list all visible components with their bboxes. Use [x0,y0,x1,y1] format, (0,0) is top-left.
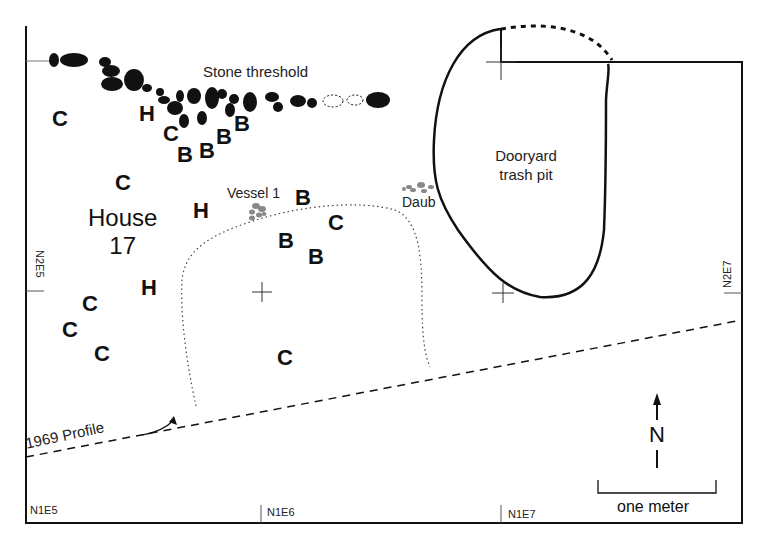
daub-fragments [402,182,434,193]
trash-pit-label-line2: trash pit [491,167,561,182]
missing-stones [323,95,363,107]
daub-label: Daub [402,195,435,209]
grid-cross-marks [252,47,516,303]
artifact-marker: B [177,144,193,166]
artifact-marker: B [278,230,294,252]
house-17-label: House 17 [88,204,157,259]
map-drawing [0,0,760,541]
north-label: N [649,424,665,446]
artifact-marker: C [277,347,293,369]
artifact-marker: B [308,246,324,268]
trash-pit-dashed-extent [501,26,612,60]
house-floor-outline [182,205,430,406]
artifact-marker: C [94,343,110,365]
house-label-line2: 17 [88,232,157,260]
artifact-marker: C [62,319,78,341]
grid-label-n1e5: N1E5 [30,505,58,516]
artifact-marker: H [193,200,209,222]
artifact-marker: H [141,277,157,299]
artifact-marker: H [139,103,155,125]
scale-bar [598,480,716,493]
vessel-1-label: Vessel 1 [227,186,280,200]
artifact-marker: C [82,293,98,315]
grid-label-n1e6: N1E6 [267,507,295,518]
grid-label-n2e5: N2E5 [34,250,45,278]
artifact-marker: C [52,108,68,130]
trash-pit-label-line1: Dooryard [491,148,561,163]
scale-bar-label: one meter [617,499,689,515]
grid-label-n1e7: N1E7 [508,509,536,520]
artifact-marker: C [328,212,344,234]
artifact-marker: B [234,113,250,135]
house-label-line1: House [88,204,157,232]
artifact-marker: B [216,126,232,148]
excavation-map: Stone threshold Dooryard trash pit Vesse… [0,0,760,541]
profile-line [26,320,742,457]
artifact-marker: B [199,140,215,162]
artifact-marker: C [115,172,131,194]
stone-threshold-label: Stone threshold [203,64,308,79]
vessel-1-sherds [249,203,267,221]
artifact-marker: B [295,187,311,209]
grid-label-n2e7: N2E7 [722,260,733,288]
